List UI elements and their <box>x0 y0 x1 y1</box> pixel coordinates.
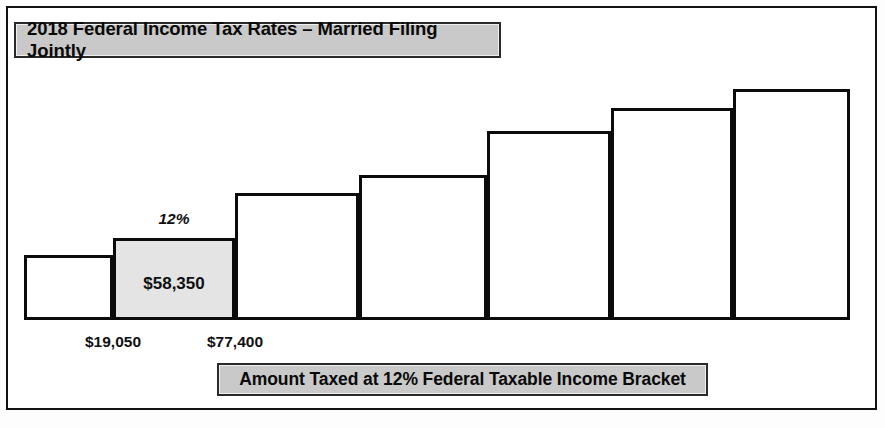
bar-1 <box>24 255 113 320</box>
bracket-rate-label: 12% <box>113 210 235 228</box>
chart-caption-text: Amount Taxed at 12% Federal Taxable Inco… <box>239 369 686 390</box>
axis-tick-label-2: $77,400 <box>165 333 305 351</box>
bar-4 <box>359 175 487 320</box>
bar-5 <box>487 131 611 320</box>
bar-7 <box>733 89 850 320</box>
chart-caption-banner: Amount Taxed at 12% Federal Taxable Inco… <box>217 363 708 396</box>
bar-6 <box>611 108 733 320</box>
bar-value-label: $58,350 <box>113 274 235 294</box>
axis-tick-label-1: $19,050 <box>43 333 183 351</box>
bar-3 <box>235 193 359 320</box>
chart-screenshot: 2018 Federal Income Tax Rates – Married … <box>0 0 885 428</box>
